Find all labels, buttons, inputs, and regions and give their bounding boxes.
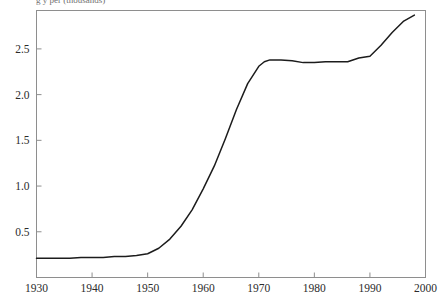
figure: g y per (thousands) 0.51.01.52.02.5 1930… — [0, 0, 443, 304]
x-tick-label: 2000 — [414, 282, 437, 294]
y-tick-label: 1.0 — [15, 180, 30, 192]
plot-frame — [37, 11, 426, 278]
x-axis-ticks: 19301940195019601970198019902000 — [25, 273, 437, 294]
x-tick-label: 1940 — [81, 282, 104, 294]
y-tick-label: 2.5 — [15, 43, 30, 55]
x-tick-label: 1950 — [136, 282, 159, 294]
x-tick-label: 1990 — [358, 282, 381, 294]
data-line-value — [37, 15, 415, 258]
x-tick-label: 1970 — [247, 282, 270, 294]
y-axis-ticks: 0.51.01.52.02.5 — [15, 43, 41, 238]
y-tick-label: 2.0 — [15, 89, 30, 101]
data-series-group — [37, 15, 415, 258]
y-tick-label: 1.5 — [15, 134, 30, 146]
x-tick-label: 1930 — [25, 282, 48, 294]
chart-plot-area: 0.51.01.52.02.5 193019401950196019701980… — [0, 0, 443, 304]
x-tick-label: 1980 — [303, 282, 326, 294]
x-tick-label: 1960 — [192, 282, 215, 294]
y-tick-label: 0.5 — [15, 226, 30, 238]
